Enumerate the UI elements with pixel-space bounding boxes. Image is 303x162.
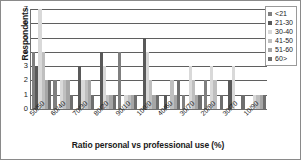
bar bbox=[198, 95, 201, 109]
legend-item-label: 41-50 bbox=[275, 37, 293, 44]
legend-swatch-icon bbox=[268, 39, 272, 43]
legend-swatch-icon bbox=[268, 48, 272, 52]
legend-item-label: 30-40 bbox=[275, 28, 293, 35]
bar bbox=[134, 95, 137, 109]
bar-group bbox=[224, 9, 245, 109]
bar-group bbox=[181, 9, 202, 109]
x-axis-tick-cell: 60/40 bbox=[51, 110, 72, 138]
bar bbox=[48, 80, 51, 109]
x-axis-tick-cell: 40/60 bbox=[159, 110, 180, 138]
x-axis-tick-cell: 30/70 bbox=[180, 110, 201, 138]
legend-item-label: <21 bbox=[275, 10, 287, 17]
legend-item-label: 21-30 bbox=[275, 19, 293, 26]
legend: <2121-3030-4041-5051-6060> bbox=[265, 6, 297, 66]
x-axis-tick-cell: 50/50 bbox=[30, 110, 51, 138]
bar-group bbox=[52, 9, 73, 109]
bar bbox=[177, 80, 180, 109]
y-axis-tick-2: 2 bbox=[17, 77, 28, 85]
bar-group bbox=[138, 9, 159, 109]
legend-item[interactable]: 30-40 bbox=[268, 27, 293, 36]
x-axis-tick-cell: 90/10 bbox=[116, 110, 137, 138]
x-axis-tick-cell: 70/30 bbox=[73, 110, 94, 138]
legend-item[interactable]: 51-60 bbox=[268, 45, 293, 54]
bar-group bbox=[117, 9, 138, 109]
legend-swatch-icon bbox=[268, 12, 272, 16]
legend-item[interactable]: 60> bbox=[268, 54, 293, 63]
y-axis-tick-4: 4 bbox=[17, 48, 28, 56]
x-axis-tick-cell: 80/20 bbox=[94, 110, 115, 138]
bar bbox=[263, 95, 266, 109]
bar bbox=[113, 95, 116, 109]
y-axis-tick-labels: 01234567 bbox=[17, 9, 28, 109]
y-axis-tick-6: 6 bbox=[17, 20, 28, 28]
bar-group bbox=[95, 9, 116, 109]
legend-swatch-icon bbox=[268, 30, 272, 34]
plot-area bbox=[30, 9, 267, 110]
y-axis-tick-0: 0 bbox=[17, 105, 28, 113]
bar bbox=[156, 95, 159, 109]
x-axis-tick-labels: 50/5060/4070/3080/2090/10100/040/6030/70… bbox=[30, 110, 266, 138]
bar bbox=[91, 95, 94, 109]
bar bbox=[70, 95, 73, 109]
x-axis-tick-cell: 100/0 bbox=[137, 110, 158, 138]
y-axis-tick-3: 3 bbox=[17, 62, 28, 70]
bar bbox=[118, 52, 121, 109]
bar-group bbox=[246, 9, 267, 109]
legend-item[interactable]: <21 bbox=[268, 9, 293, 18]
bar-group bbox=[74, 9, 95, 109]
x-axis-tick-cell: 10/90 bbox=[245, 110, 266, 138]
y-axis-tick-1: 1 bbox=[17, 91, 28, 99]
bar bbox=[220, 95, 223, 109]
bar-group bbox=[31, 9, 52, 109]
legend-item[interactable]: 41-50 bbox=[268, 36, 293, 45]
legend-item-label: 60> bbox=[275, 55, 287, 62]
bar-chart: Respondents 01234567 50/5060/4070/3080/2… bbox=[0, 0, 301, 160]
bar-groups bbox=[31, 9, 267, 109]
legend-swatch-icon bbox=[268, 21, 272, 25]
x-axis-tick-cell: 20/80 bbox=[202, 110, 223, 138]
x-axis-tick-cell: 30/70 bbox=[223, 110, 244, 138]
legend-swatch-icon bbox=[268, 57, 272, 61]
legend-item-label: 51-60 bbox=[275, 46, 293, 53]
bar-group bbox=[203, 9, 224, 109]
bar-group bbox=[160, 9, 181, 109]
legend-item[interactable]: 21-30 bbox=[268, 18, 293, 27]
y-axis-tick-7: 7 bbox=[17, 5, 28, 13]
x-axis-title: Ratio personal vs professional use (%) bbox=[30, 140, 266, 150]
y-axis-tick-5: 5 bbox=[17, 34, 28, 42]
bar bbox=[241, 95, 244, 109]
